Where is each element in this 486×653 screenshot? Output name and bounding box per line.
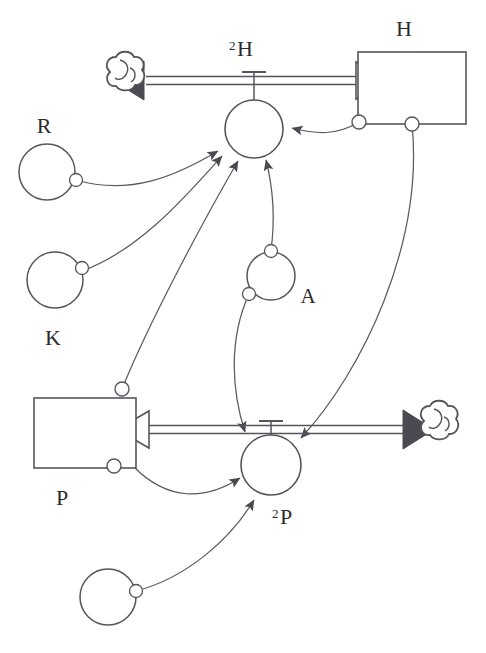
label-stock-p: P xyxy=(56,485,68,510)
connector-p-to-h2-rate xyxy=(122,161,238,389)
variable-unnamed[interactable] xyxy=(80,569,143,625)
label-variable-a: A xyxy=(300,284,316,308)
label-rate-h2-base: H xyxy=(237,36,253,61)
variable-a-connector-bottom[interactable] xyxy=(243,288,256,301)
label-variable-r: R xyxy=(37,113,52,138)
label-rate-p2-superscript: 2 xyxy=(272,506,279,521)
variable-unnamed-connector[interactable] xyxy=(130,585,143,598)
variable-k-circle[interactable] xyxy=(27,252,83,308)
connector-a-to-h2-rate xyxy=(266,160,273,250)
valve-h2-circle[interactable] xyxy=(225,100,283,158)
cloud-left-top-icon xyxy=(107,52,144,91)
label-rate-h2-superscript: 2 xyxy=(229,38,236,53)
label-rate-p2: 2 P xyxy=(272,504,292,529)
label-stock-h: H xyxy=(396,16,412,41)
stock-h-connector-left[interactable] xyxy=(352,115,366,129)
rate-valve-p2[interactable] xyxy=(241,421,301,495)
stock-p-connector-top[interactable] xyxy=(115,382,129,396)
stock-h-box[interactable] xyxy=(358,52,466,124)
variable-k-connector[interactable] xyxy=(76,262,89,275)
variable-r-connector[interactable] xyxy=(70,174,83,187)
variable-a-connector-top[interactable] xyxy=(265,245,278,258)
connector-h-to-h2-rate xyxy=(292,122,359,133)
connector-r-to-h2-rate xyxy=(76,151,218,186)
variable-r[interactable] xyxy=(19,144,83,200)
connector-a-to-p2-rate xyxy=(234,294,249,432)
stock-p-connector-bottom[interactable] xyxy=(107,459,121,473)
stock-h-connector-bottom[interactable] xyxy=(405,117,419,131)
connector-k-to-h2-rate xyxy=(82,156,222,271)
variable-r-circle[interactable] xyxy=(19,144,75,200)
stock-p[interactable] xyxy=(34,382,136,473)
connector-unnamed-to-p2-rate xyxy=(136,500,254,591)
valve-p2-circle[interactable] xyxy=(241,435,301,495)
stock-h[interactable] xyxy=(352,52,466,131)
diagram-canvas: H P R K A 2 H 2 P xyxy=(0,0,486,653)
stock-p-box[interactable] xyxy=(34,398,136,468)
label-rate-p2-base: P xyxy=(280,504,292,529)
stock-and-flow-diagram: H P R K A 2 H 2 P xyxy=(0,0,486,653)
label-variable-k: K xyxy=(45,325,61,350)
flow-h-pipe xyxy=(113,61,388,100)
connector-h-to-p2-rate xyxy=(301,124,414,438)
connector-p-to-p2-rate xyxy=(133,466,240,494)
variable-k[interactable] xyxy=(27,252,89,308)
label-rate-h2: 2 H xyxy=(229,36,253,61)
variable-a[interactable] xyxy=(243,245,296,301)
variable-unnamed-circle[interactable] xyxy=(80,569,136,625)
connector-layer xyxy=(76,122,414,591)
cloud-right-bottom-icon xyxy=(421,401,458,440)
